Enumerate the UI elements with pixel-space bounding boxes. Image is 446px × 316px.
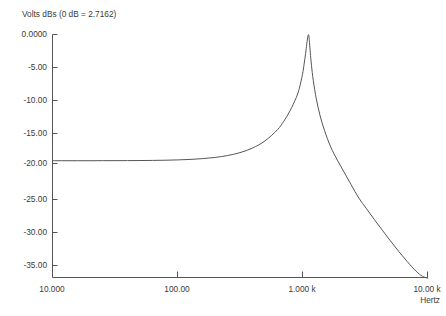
y-tick-label: -35.00 <box>23 260 47 270</box>
y-tick-label: -15.00 <box>23 128 47 138</box>
y-tick-label: -5.00 <box>28 62 47 72</box>
y-tick-label: -10.00 <box>23 95 47 105</box>
y-tick-label: 0.0000 <box>22 29 48 39</box>
y-tick-label: -25.00 <box>23 194 47 204</box>
x-tick-label: 10.00 k <box>413 284 441 294</box>
chart-screenshot: Volts dBs (0 dB = 2.7162) 0.0000 -5.00 -… <box>0 0 446 316</box>
chart-title: Volts dBs (0 dB = 2.7162) <box>22 9 117 19</box>
x-tick-label: 10.000 <box>39 284 65 294</box>
x-tick-label: 1.000 k <box>288 284 316 294</box>
y-tick-label: -20.00 <box>23 158 47 168</box>
chart-canvas: Volts dBs (0 dB = 2.7162) 0.0000 -5.00 -… <box>0 0 446 316</box>
chart-background <box>0 0 446 316</box>
y-tick-label: -30.00 <box>23 227 47 237</box>
x-axis-unit-label: Hertz <box>420 295 440 305</box>
x-tick-label: 100.00 <box>164 284 190 294</box>
